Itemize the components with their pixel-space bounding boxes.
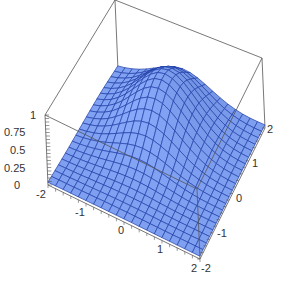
x-tick-label: 0 (118, 224, 124, 236)
surface-mesh (48, 66, 265, 256)
y-tick-label: -1 (217, 227, 227, 239)
x-tick-label: 1 (157, 243, 163, 255)
x-tick-label: -1 (75, 206, 85, 218)
box-edge (115, 0, 118, 70)
surface-plot: 0 0.25 0.5 0.75 1 -2 -1 0 1 2 -2 -1 0 1 … (0, 0, 288, 287)
box-edge (262, 58, 265, 128)
x-tick-label: 2 (191, 262, 197, 274)
y-tick-label: 0 (236, 192, 242, 204)
y-tick-label: 1 (252, 157, 258, 169)
x-tick-label: -2 (36, 188, 46, 200)
z-tick-label: 0.5 (10, 144, 25, 156)
z-tick-label: 0.25 (4, 162, 25, 174)
box-edge (115, 0, 262, 58)
z-tick-label: 0 (14, 179, 20, 191)
z-tick-label: 0.75 (4, 126, 25, 138)
z-tick-label: 1 (30, 109, 36, 121)
y-tick-label: 2 (267, 123, 273, 135)
z-axis: 0 0.25 0.5 0.75 1 (4, 109, 36, 191)
y-tick-label: -2 (201, 262, 211, 274)
